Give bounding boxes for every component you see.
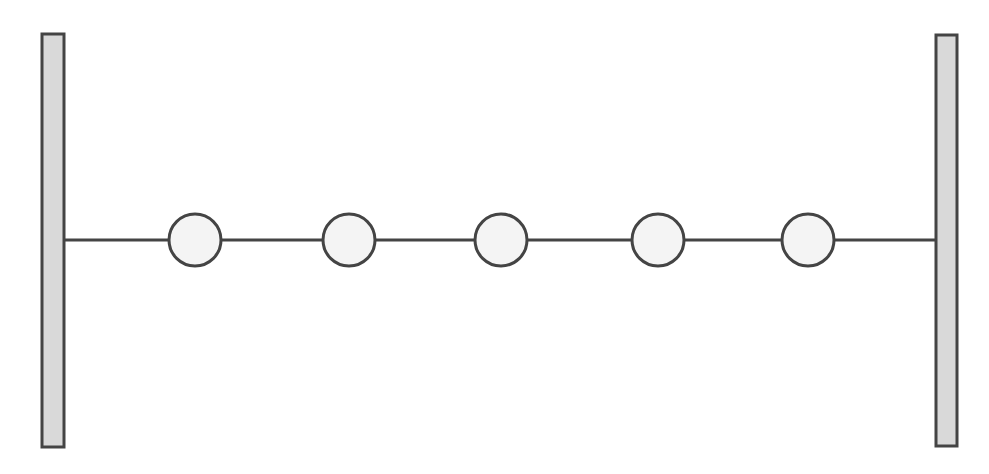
- mass-4: [632, 214, 684, 266]
- mass-2: [323, 214, 375, 266]
- mass-3: [475, 214, 527, 266]
- masses-on-string-diagram: [0, 0, 989, 474]
- left-wall: [42, 34, 64, 447]
- right-wall: [936, 35, 957, 446]
- mass-5: [782, 214, 834, 266]
- mass-1: [169, 214, 221, 266]
